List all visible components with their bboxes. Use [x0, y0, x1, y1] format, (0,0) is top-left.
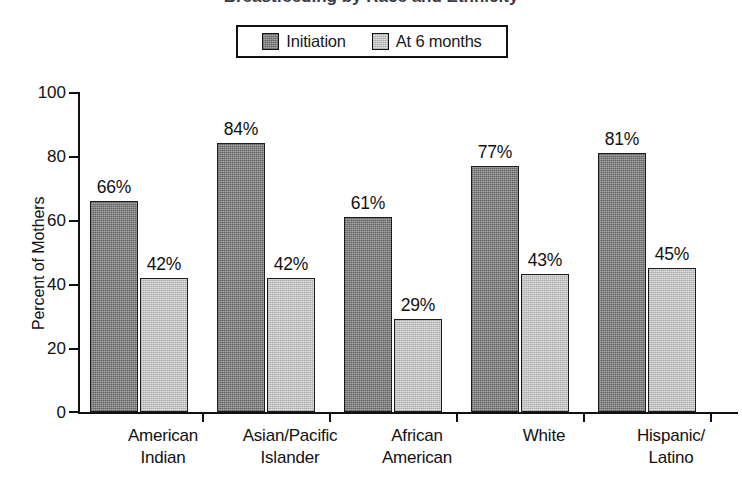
x-axis-line: [78, 412, 738, 414]
chart-legend: Initiation At 6 months: [236, 25, 508, 58]
legend-entry-at-6-months: At 6 months: [372, 32, 482, 51]
x-tick-3: [583, 413, 585, 422]
legend-swatch-initiation: [262, 33, 279, 50]
x-category-label-0: AmericanIndian: [98, 425, 228, 469]
bar-value-1-3: 43%: [515, 251, 575, 269]
bar-0-4: [598, 153, 646, 412]
y-tick-label-0: 0: [20, 404, 66, 421]
x-tick-2: [456, 413, 458, 422]
bar-0-1: [217, 143, 265, 412]
bar-value-0-2: 61%: [338, 194, 398, 212]
legend-entry-initiation: Initiation: [262, 32, 345, 51]
bar-value-0-3: 77%: [465, 143, 525, 161]
bar-value-1-0: 42%: [134, 255, 194, 273]
legend-swatch-at-6-months: [372, 33, 389, 50]
y-tick-label-60: 60: [20, 212, 66, 229]
bar-1-2: [394, 319, 442, 412]
bar-1-1: [267, 278, 315, 412]
bar-0-2: [344, 217, 392, 412]
x-category-label-3: White: [479, 425, 609, 447]
bar-1-4: [648, 268, 696, 412]
y-tick-40: [69, 284, 78, 286]
x-category-label-line1-4: Hispanic/: [637, 426, 705, 445]
y-tick-0: [69, 411, 78, 413]
x-tick-0: [202, 413, 204, 422]
x-category-label-2: AfricanAmerican: [352, 425, 482, 469]
legend-label-initiation: Initiation: [286, 32, 345, 51]
y-tick-20: [69, 348, 78, 350]
bar-value-0-1: 84%: [211, 120, 271, 138]
y-tick-80: [69, 156, 78, 158]
chart-title-text: Breastfeeding by Race and Ethnicity: [224, 0, 519, 6]
plot-area: 66%42%84%42%61%29%77%43%81%45%: [78, 92, 738, 412]
y-tick-label-20: 20: [20, 340, 66, 357]
y-tick-100: [69, 92, 78, 94]
bar-1-3: [521, 274, 569, 412]
x-tick-end: [710, 413, 712, 422]
y-tick-label-100: 100: [20, 84, 66, 101]
y-tick-60: [69, 220, 78, 222]
bar-0-0: [90, 201, 138, 412]
bar-0-3: [471, 166, 519, 412]
x-category-label-line1-0: American: [128, 426, 198, 445]
x-category-label-line1-2: African: [391, 426, 443, 445]
chart-title: Breastfeeding by Race and Ethnicity: [0, 0, 742, 7]
y-axis-line: [78, 92, 80, 413]
bar-value-0-0: 66%: [84, 178, 144, 196]
x-category-label-line2-0: Indian: [98, 447, 228, 469]
legend-label-at-6-months: At 6 months: [396, 32, 482, 51]
x-tick-1: [329, 413, 331, 422]
x-category-label-4: Hispanic/Latino: [606, 425, 736, 469]
y-tick-label-80: 80: [20, 148, 66, 165]
y-tick-label-40: 40: [20, 276, 66, 293]
bar-value-1-2: 29%: [388, 296, 448, 314]
x-category-label-line1-1: Asian/Pacific: [243, 426, 338, 445]
x-category-label-1: Asian/PacificIslander: [225, 425, 355, 469]
bar-value-1-4: 45%: [642, 245, 702, 263]
x-category-label-line2-2: American: [352, 447, 482, 469]
x-category-label-line1-3: White: [523, 426, 565, 445]
bar-value-1-1: 42%: [261, 255, 321, 273]
x-category-label-line2-1: Islander: [225, 447, 355, 469]
x-category-label-line2-4: Latino: [606, 447, 736, 469]
bar-value-0-4: 81%: [592, 130, 652, 148]
bar-1-0: [140, 278, 188, 412]
